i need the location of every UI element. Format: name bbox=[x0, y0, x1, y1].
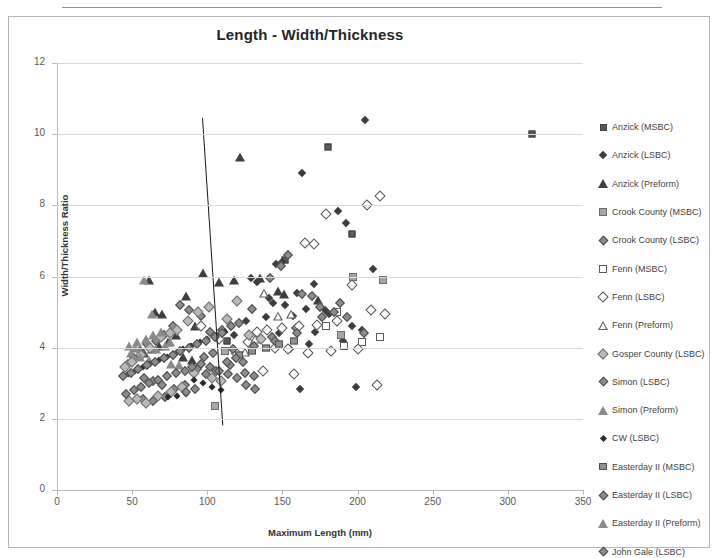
data-point bbox=[320, 209, 331, 220]
legend-item[interactable]: Simon (LSBC) bbox=[596, 368, 716, 396]
legend-item[interactable]: Easterday II (Preform) bbox=[596, 509, 716, 537]
data-point bbox=[281, 301, 289, 309]
data-point bbox=[248, 348, 256, 355]
legend-label: Simon (LSBC) bbox=[612, 377, 670, 387]
data-point bbox=[379, 308, 390, 319]
data-point bbox=[199, 380, 206, 387]
data-point bbox=[376, 333, 384, 341]
data-point bbox=[269, 299, 277, 307]
x-tick-label: 50 bbox=[112, 496, 152, 507]
data-point bbox=[342, 312, 352, 322]
y-tick-label: 4 bbox=[13, 341, 45, 352]
legend-marker-icon bbox=[596, 378, 610, 385]
data-point bbox=[286, 309, 296, 318]
data-point bbox=[232, 296, 243, 307]
data-point bbox=[156, 327, 166, 336]
x-tick-label: 300 bbox=[488, 496, 528, 507]
y-tick-label: 2 bbox=[13, 412, 45, 423]
y-tick-label: 8 bbox=[13, 198, 45, 209]
data-point bbox=[203, 301, 214, 312]
y-tick-label: 12 bbox=[13, 56, 45, 67]
data-point bbox=[341, 219, 349, 227]
legend-label: John Gale (LSBC) bbox=[612, 547, 685, 557]
legend-marker-icon bbox=[596, 436, 610, 441]
legend-item[interactable]: Fenn (Preform) bbox=[596, 311, 716, 339]
data-point bbox=[262, 313, 270, 321]
data-point bbox=[174, 392, 181, 399]
data-point bbox=[361, 116, 369, 124]
legend-label: Anzick (MSBC) bbox=[612, 122, 673, 132]
data-point bbox=[181, 292, 191, 301]
legend-item[interactable]: Fenn (LSBC) bbox=[596, 283, 716, 311]
data-point bbox=[124, 341, 134, 350]
legend-marker-icon bbox=[596, 519, 610, 528]
data-point bbox=[250, 384, 260, 394]
legend-item[interactable]: Anzick (LSBC) bbox=[596, 141, 716, 169]
legend-item[interactable]: Anzick (Preform) bbox=[596, 170, 716, 198]
data-point bbox=[347, 322, 355, 330]
legend-item[interactable]: CW (LSBC) bbox=[596, 424, 716, 452]
x-tick-mark bbox=[132, 491, 133, 495]
data-point bbox=[346, 280, 357, 291]
data-point bbox=[242, 317, 250, 325]
legend-marker-icon bbox=[596, 265, 610, 273]
data-point bbox=[371, 379, 382, 390]
data-point bbox=[340, 342, 348, 350]
legend-item[interactable]: Crook County (LSBC) bbox=[596, 226, 716, 254]
data-point bbox=[337, 331, 345, 339]
x-axis-title: Maximum Length (mm) bbox=[200, 527, 440, 538]
chart-page: Length - Width/Thickness 024681012050100… bbox=[0, 0, 724, 558]
data-point bbox=[308, 239, 319, 250]
data-point bbox=[249, 371, 259, 381]
legend-item[interactable]: Easterday II (LSBC) bbox=[596, 481, 716, 509]
chart-legend: Anzick (MSBC)Anzick (LSBC)Anzick (Prefor… bbox=[596, 113, 716, 558]
gridline-y bbox=[57, 277, 583, 278]
data-point bbox=[359, 328, 369, 338]
legend-label: Fenn (LSBC) bbox=[612, 292, 665, 302]
legend-label: Easterday II (LSBC) bbox=[612, 490, 692, 500]
legend-marker-icon bbox=[596, 406, 610, 415]
legend-label: CW (LSBC) bbox=[612, 433, 659, 443]
data-point bbox=[324, 143, 331, 150]
data-point bbox=[279, 290, 289, 299]
legend-label: Crook County (MSBC) bbox=[612, 207, 702, 217]
legend-item[interactable]: John Gale (LSBC) bbox=[596, 537, 716, 558]
data-point bbox=[230, 331, 238, 339]
x-tick-label: 200 bbox=[338, 496, 378, 507]
legend-marker-icon bbox=[596, 321, 610, 330]
legend-item[interactable]: Anzick (MSBC) bbox=[596, 113, 716, 141]
y-tick-mark bbox=[52, 205, 57, 206]
data-point bbox=[365, 305, 376, 316]
data-point bbox=[334, 206, 342, 214]
y-tick-mark bbox=[52, 419, 57, 420]
data-point bbox=[331, 315, 342, 326]
legend-marker-icon bbox=[596, 492, 610, 499]
data-point bbox=[235, 153, 245, 162]
gridline-y bbox=[57, 419, 583, 420]
legend-item[interactable]: Simon (Preform) bbox=[596, 396, 716, 424]
data-point bbox=[147, 309, 157, 318]
data-point bbox=[302, 347, 313, 358]
x-tick-mark bbox=[207, 491, 208, 495]
data-point bbox=[247, 304, 257, 314]
y-axis-title: Width/Thickness Ratio bbox=[59, 176, 70, 316]
data-point bbox=[289, 369, 300, 380]
legend-item[interactable]: Crook County (MSBC) bbox=[596, 198, 716, 226]
data-point bbox=[298, 169, 306, 177]
legend-item[interactable]: Fenn (MSBC) bbox=[596, 254, 716, 282]
x-tick-mark bbox=[433, 491, 434, 495]
data-point bbox=[208, 383, 215, 390]
data-point bbox=[211, 402, 219, 410]
data-point bbox=[297, 289, 307, 299]
x-tick-mark bbox=[57, 491, 58, 495]
data-point bbox=[290, 337, 298, 344]
data-point bbox=[352, 383, 360, 391]
data-point bbox=[374, 191, 385, 202]
data-point bbox=[157, 309, 167, 318]
data-point bbox=[322, 322, 330, 330]
legend-item[interactable]: Easterday II (MSBC) bbox=[596, 453, 716, 481]
data-point bbox=[348, 230, 355, 237]
legend-marker-icon bbox=[596, 463, 610, 470]
gridline-y bbox=[57, 63, 583, 64]
legend-item[interactable]: Gosper County (LSBC) bbox=[596, 339, 716, 367]
